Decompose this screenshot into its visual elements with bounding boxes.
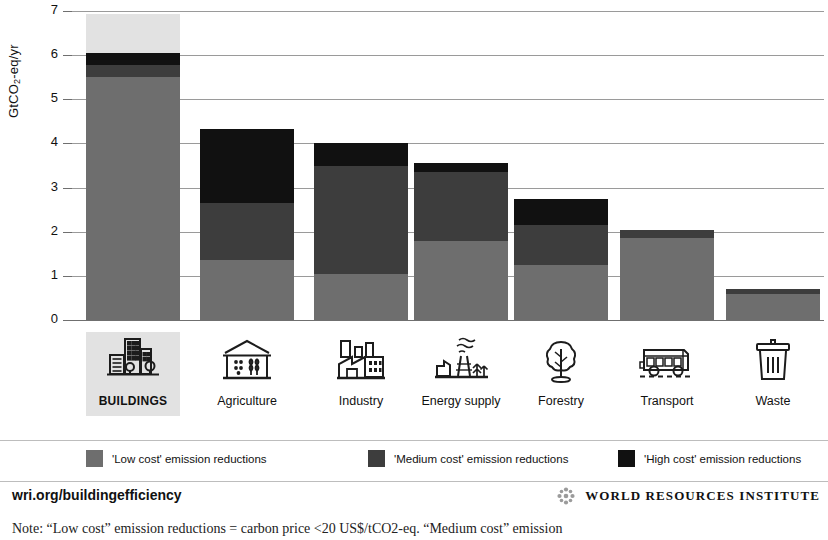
bar-segment: [514, 225, 608, 265]
legend-swatch: [368, 450, 385, 467]
transport-icon: [638, 332, 696, 392]
category-industry[interactable]: Industry: [314, 332, 408, 428]
bar-segment: [314, 274, 408, 320]
category-buildings[interactable]: BUILDINGS: [86, 332, 180, 428]
category-energy-supply[interactable]: Energy supply: [414, 332, 508, 428]
chart-plot-area: GtCO2-eq/yr 76543210: [0, 0, 828, 332]
wri-logo: WORLD RESOURCES INSTITUTE: [556, 486, 820, 506]
bar-segment: [414, 172, 508, 240]
bar-segment: [86, 77, 180, 320]
category-label: Waste: [756, 394, 791, 408]
wri-url[interactable]: wri.org/buildingefficiency: [12, 487, 182, 503]
legend-item[interactable]: 'Medium cost' emission reductions: [368, 450, 568, 467]
bar-segment: [314, 143, 408, 165]
bar-column[interactable]: [726, 289, 820, 320]
chart-note: Note: “Low cost” emission reductions = c…: [12, 521, 822, 537]
category-waste[interactable]: Waste: [726, 332, 820, 428]
legend-swatch: [86, 450, 103, 467]
bar-segment: [200, 203, 294, 260]
legend-label: 'Medium cost' emission reductions: [394, 453, 568, 465]
bar-series-group: [0, 0, 828, 332]
bar-segment: [414, 163, 508, 172]
legend-item[interactable]: 'Low cost' emission reductions: [86, 450, 267, 467]
bar-segment: [514, 265, 608, 320]
bar-segment: [620, 230, 714, 239]
chart-legend: 'Low cost' emission reductions'Medium co…: [0, 440, 828, 482]
bar-column[interactable]: [620, 230, 714, 320]
bar-segment: [86, 65, 180, 77]
forestry-icon: [537, 332, 585, 392]
category-label: Transport: [640, 394, 693, 408]
legend-item[interactable]: 'High cost' emission reductions: [618, 450, 801, 467]
legend-swatch: [618, 450, 635, 467]
bar-segment: [86, 53, 180, 65]
legend-label: 'Low cost' emission reductions: [112, 453, 267, 465]
industry-icon: [335, 332, 387, 392]
bar-column[interactable]: [86, 53, 180, 320]
bar-column[interactable]: [414, 163, 508, 320]
bar-segment: [514, 199, 608, 225]
agriculture-icon: [221, 332, 273, 392]
bar-segment: [726, 294, 820, 320]
wri-mark-icon: [556, 486, 576, 506]
bar-segment: [200, 129, 294, 203]
legend-label: 'High cost' emission reductions: [644, 453, 801, 465]
energy-supply-icon: [433, 332, 489, 392]
bar-segment: [620, 238, 714, 320]
category-transport[interactable]: Transport: [620, 332, 714, 428]
bar-column[interactable]: [314, 143, 408, 320]
footer: wri.org/buildingefficiency WORLD RESOURC…: [0, 486, 828, 520]
category-agriculture[interactable]: Agriculture: [200, 332, 294, 428]
waste-icon: [751, 332, 795, 392]
category-label: Industry: [339, 394, 383, 408]
bar-segment: [200, 260, 294, 320]
bar-column[interactable]: [200, 129, 294, 320]
category-label: BUILDINGS: [99, 394, 168, 408]
wri-org-name: WORLD RESOURCES INSTITUTE: [585, 488, 820, 504]
bar-segment: [314, 166, 408, 274]
bar-column[interactable]: [514, 199, 608, 320]
chart-page: GtCO2-eq/yr 76543210: [0, 0, 828, 540]
category-label: Agriculture: [217, 394, 277, 408]
category-axis: BUILDINGS Agriculture: [0, 332, 828, 428]
bar-segment: [414, 241, 508, 320]
category-label: Forestry: [538, 394, 584, 408]
category-forestry[interactable]: Forestry: [514, 332, 608, 428]
buildings-icon: [105, 332, 161, 392]
category-label: Energy supply: [421, 394, 500, 408]
